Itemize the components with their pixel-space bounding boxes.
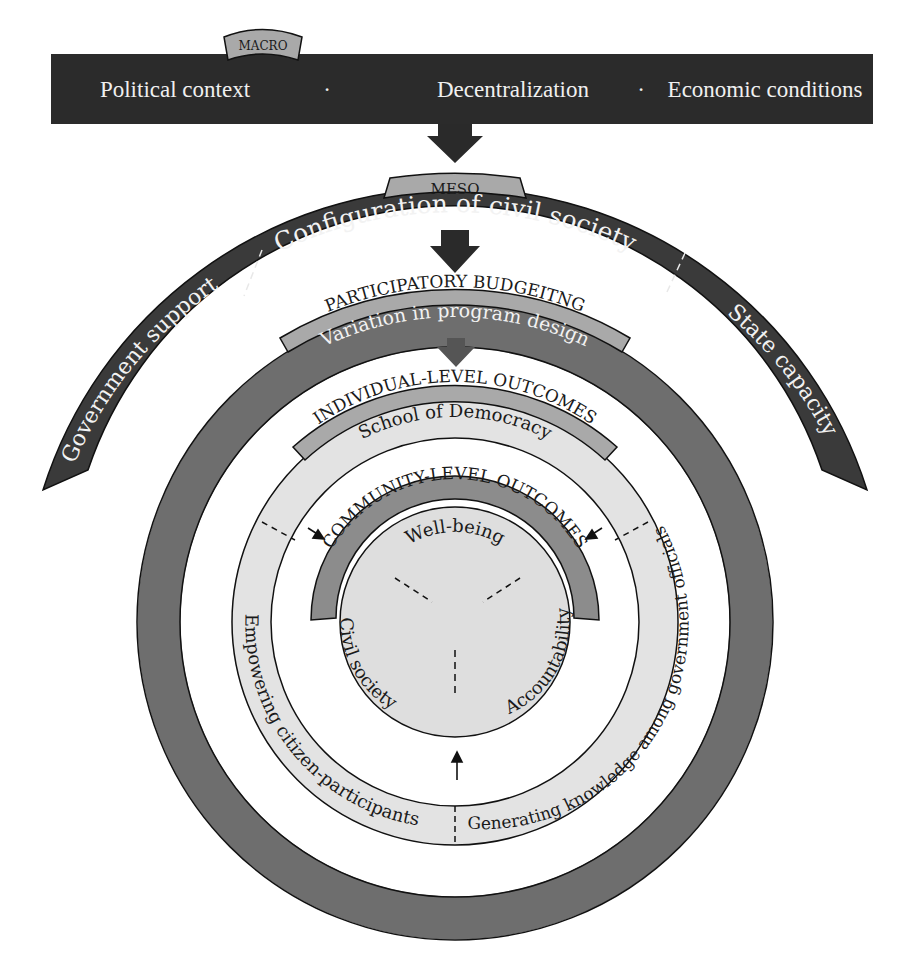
macro-tab-label: MACRO: [238, 39, 287, 53]
meso-tab-label: MESO: [431, 180, 480, 198]
macro-item-economic-conditions: Economic conditions: [668, 77, 863, 102]
macro-separator: ·: [323, 77, 331, 102]
macro-separator: ·: [637, 77, 645, 102]
macro-bar: Political context · Decentralization · E…: [51, 54, 873, 124]
meso-tab: MESO: [384, 173, 526, 198]
community-inner-circle: Well-being Civil society Accountability: [336, 507, 573, 737]
arrow-meso-to-pb: [430, 230, 480, 273]
macro-item-decentralization: Decentralization: [437, 77, 589, 102]
macro-item-political-context: Political context: [100, 77, 251, 102]
participatory-budgeting-outcomes-diagram: Configuration of civil society Governmen…: [0, 0, 915, 966]
